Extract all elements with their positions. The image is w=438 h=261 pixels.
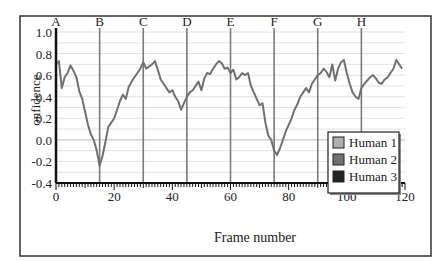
y-tick-label: 0.8 <box>36 47 52 62</box>
svg-text:E: E <box>227 14 235 29</box>
x-tick-label: 20 <box>108 189 121 204</box>
x-tick-label: 60 <box>224 189 237 204</box>
svg-text:D: D <box>182 14 191 29</box>
legend: Human 1Human 2Human 3 <box>328 132 401 195</box>
svg-text:Human 3: Human 3 <box>349 169 397 184</box>
x-tick-label: 40 <box>166 189 179 204</box>
svg-text:C: C <box>139 14 148 29</box>
svg-text:Human 2: Human 2 <box>349 152 397 167</box>
y-tick-label: 1.0 <box>36 25 52 40</box>
svg-text:Human 1: Human 1 <box>349 135 397 150</box>
x-axis-label: Frame number <box>214 230 296 245</box>
svg-text:H: H <box>357 14 366 29</box>
y-tick-label: -0.2 <box>31 154 52 169</box>
svg-text:F: F <box>271 14 278 29</box>
y-tick-label: -0.4 <box>31 176 52 191</box>
svg-text:B: B <box>95 14 104 29</box>
legend-item-1: Human 1 <box>333 135 397 150</box>
legend-item-2: Human 2 <box>333 152 397 167</box>
x-tick-label: 0 <box>53 189 60 204</box>
legend-item-3: Human 3 <box>333 169 397 184</box>
confidence-chart: ABCDEFGH 1.00.80.60.40.20.0-0.2-0.4 0204… <box>0 0 438 261</box>
x-tick-label: 80 <box>282 189 295 204</box>
y-tick-label: 0.0 <box>36 133 52 148</box>
svg-text:A: A <box>51 14 61 29</box>
svg-text:G: G <box>313 14 322 29</box>
y-axis-label: onfidence <box>28 74 43 125</box>
